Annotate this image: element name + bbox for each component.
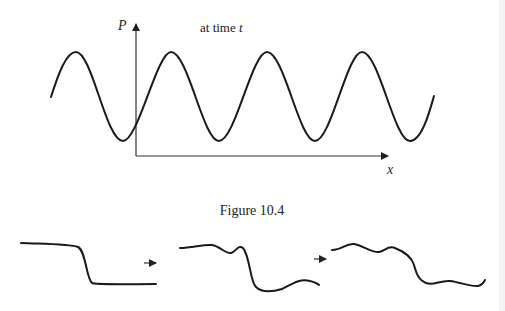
figure-canvas: P x at time t Figure 10.4: [0, 0, 505, 311]
axes: [136, 24, 388, 156]
figure-caption: Figure 10.4: [220, 203, 285, 218]
y-axis-label: P: [117, 18, 127, 33]
sine-wave: [51, 52, 434, 141]
step-profile-1: [21, 243, 156, 284]
x-axis-label: x: [386, 162, 394, 177]
time-annotation: at time t: [200, 20, 243, 35]
step-profile-3: [332, 244, 485, 286]
step-profile-2: [180, 245, 319, 292]
